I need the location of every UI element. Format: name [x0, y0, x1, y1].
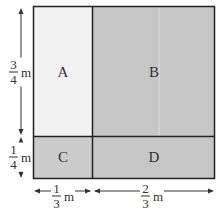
unit: m: [64, 188, 74, 204]
region-a-label: A: [58, 64, 69, 81]
denominator: 4: [10, 74, 17, 86]
denominator: 3: [142, 198, 149, 210]
denominator: 4: [10, 159, 17, 171]
denominator: 3: [53, 198, 60, 210]
dimension-left-bottom: 14 m: [8, 143, 32, 172]
dimension-bottom-right: 23 m: [140, 182, 164, 211]
dimension-bottom-left: 13 m: [51, 182, 75, 211]
numerator: 2: [142, 183, 149, 195]
unit: m: [21, 149, 31, 165]
dimension-left-top: 34 m: [8, 58, 32, 87]
numerator: 1: [53, 183, 60, 195]
diagram-lines: [0, 0, 223, 217]
numerator: 1: [10, 144, 17, 156]
numerator: 3: [10, 59, 17, 71]
region-b-label: B: [149, 64, 159, 81]
unit: m: [21, 64, 31, 80]
unit: m: [153, 188, 163, 204]
region-c-label: C: [58, 149, 68, 166]
region-d-label: D: [149, 149, 160, 166]
